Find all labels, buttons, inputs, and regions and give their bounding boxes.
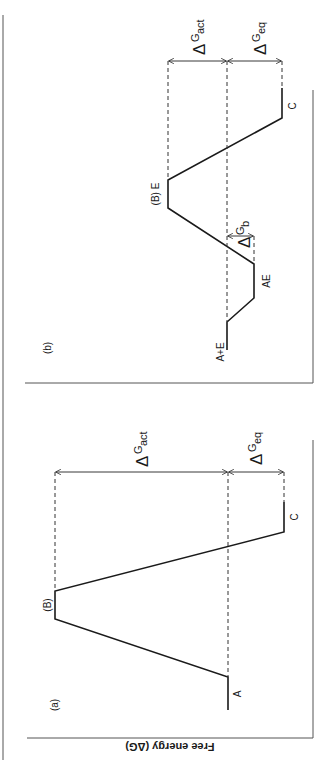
state-c: C xyxy=(289,513,300,520)
panel-b-dg-eq-label: Δ G eq xyxy=(250,22,270,55)
svg-text:Δ: Δ xyxy=(235,237,254,248)
panel-a-dg-act-label: Δ G act xyxy=(132,431,152,467)
panel-a-dg-eq-label: Δ G eq xyxy=(246,432,266,465)
state-a-plus-e: A+E xyxy=(215,342,226,362)
svg-text:Δ: Δ xyxy=(247,454,266,465)
svg-text:act: act xyxy=(137,431,149,446)
state-ae: AE xyxy=(261,274,272,288)
panel-b-energy-profile xyxy=(168,88,282,350)
panel-a-energy-profile xyxy=(55,502,284,710)
free-energy-diagram: (b) A+E AE (B) E C Δ G act Δ G eq Δ G b xyxy=(0,0,326,760)
svg-text:act: act xyxy=(194,19,206,34)
panel-b-dg-b-label: Δ G b xyxy=(234,221,254,248)
svg-text:Δ: Δ xyxy=(251,44,270,55)
panel-b: (b) A+E AE (B) E C Δ G act Δ G eq Δ G b xyxy=(25,19,313,383)
svg-text:b: b xyxy=(239,221,251,227)
panel-a-label: (a) xyxy=(49,699,60,711)
state-c: C xyxy=(287,102,298,109)
svg-text:eq: eq xyxy=(255,22,267,34)
panel-a: (a) A (B) C Δ G act Δ G eq xyxy=(27,431,313,738)
svg-text:eq: eq xyxy=(251,432,263,444)
svg-text:Δ: Δ xyxy=(190,44,209,55)
panel-b-label: (b) xyxy=(42,342,53,354)
y-axis-label: Free energy (ΔG) xyxy=(125,741,215,753)
diagram-canvas: (b) A+E AE (B) E C Δ G act Δ G eq Δ G b xyxy=(0,0,326,760)
state-b-e: (B) E xyxy=(150,182,161,205)
svg-text:Δ: Δ xyxy=(133,456,152,467)
panel-b-dg-act-label: Δ G act xyxy=(189,19,209,55)
state-a: A xyxy=(232,690,243,697)
state-b: (B) xyxy=(42,598,53,611)
